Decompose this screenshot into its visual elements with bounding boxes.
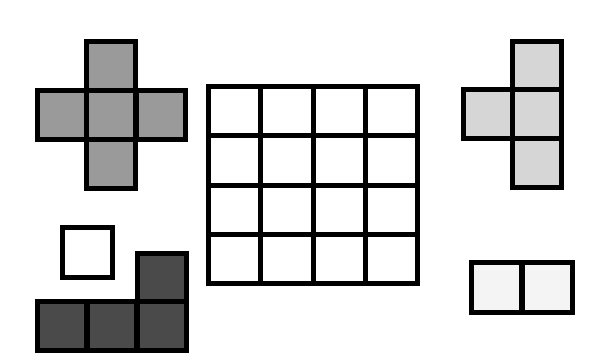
piece-cell <box>461 87 515 141</box>
piece-cell <box>135 251 189 305</box>
grid-cell <box>368 237 415 281</box>
grid-cell <box>211 89 258 133</box>
grid-cell <box>263 237 310 281</box>
piece-cell <box>520 260 575 315</box>
grid-cell <box>211 138 258 182</box>
grid-cell <box>368 138 415 182</box>
grid-cell <box>263 138 310 182</box>
grid-cell <box>316 237 363 281</box>
piece-cell <box>135 299 189 353</box>
grid-cell <box>263 188 310 232</box>
empty-4x4-grid <box>206 84 420 286</box>
piece-cell <box>510 136 564 190</box>
piece-cell <box>60 225 115 280</box>
grid-cell <box>316 138 363 182</box>
grid-cell <box>368 89 415 133</box>
piece-cell <box>469 260 524 315</box>
piece-cell <box>84 88 138 142</box>
grid-cell <box>211 237 258 281</box>
piece-cell <box>510 39 564 93</box>
piece-cell <box>35 299 89 353</box>
piece-cell <box>85 299 139 353</box>
grid-cell <box>316 188 363 232</box>
grid-cell <box>368 188 415 232</box>
grid-cell <box>263 89 310 133</box>
piece-cell <box>134 88 188 142</box>
piece-cell <box>35 88 89 142</box>
piece-cell <box>84 39 138 93</box>
piece-cell <box>84 137 138 191</box>
grid-cell <box>211 188 258 232</box>
grid-cell <box>316 89 363 133</box>
piece-cell <box>510 87 564 141</box>
